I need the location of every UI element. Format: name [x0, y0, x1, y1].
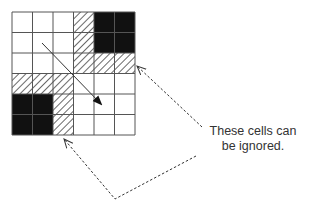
grid-cell-blocked — [94, 12, 115, 33]
grid-cell-empty — [53, 12, 74, 33]
grid-cell-blocked — [33, 115, 54, 136]
callout-text: These cells can be ignored. — [196, 124, 310, 154]
grid-cell-hatched — [53, 74, 74, 95]
grid-cell-empty — [53, 33, 74, 54]
grid-cell-blocked — [115, 12, 136, 33]
grid-cell-blocked — [94, 33, 115, 54]
callout-pointer-arrow-icon — [137, 66, 202, 127]
grid-cell-hatched — [115, 53, 136, 74]
grid-cell-empty — [33, 53, 54, 74]
grid-cell-empty — [115, 94, 136, 115]
grid-cell-empty — [94, 94, 115, 115]
grid-cell-hatched — [53, 94, 74, 115]
grid-cell-empty — [74, 94, 95, 115]
grid-cell-empty — [115, 115, 136, 136]
callout-line-2: be ignored. — [196, 139, 310, 154]
grid-cell-empty — [94, 74, 115, 95]
grid-cell-empty — [12, 33, 33, 54]
grid-cell-blocked — [33, 94, 54, 115]
callout-pointer-arrow-icon — [64, 139, 196, 199]
grid-cell-blocked — [12, 94, 33, 115]
grid-cell-hatched — [12, 74, 33, 95]
grid-cell-empty — [33, 12, 54, 33]
grid-cell-empty — [74, 74, 95, 95]
grid-cell-empty — [94, 115, 115, 136]
grid-cell-hatched — [74, 33, 95, 54]
grid-cell-hatched — [53, 115, 74, 136]
grid-cell-hatched — [74, 53, 95, 74]
grid-cell-hatched — [94, 53, 115, 74]
grid-cell-hatched — [33, 74, 54, 95]
grid-cell-empty — [12, 12, 33, 33]
grid-cell-empty — [33, 33, 54, 54]
grid-cell-empty — [53, 53, 74, 74]
callout-line-1: These cells can — [196, 124, 310, 139]
grid-cell-empty — [74, 115, 95, 136]
grid-cell-hatched — [74, 12, 95, 33]
grid-cell-empty — [115, 74, 136, 95]
grid-cell-blocked — [115, 33, 136, 54]
grid-cell-blocked — [12, 115, 33, 136]
grid-cell-empty — [12, 53, 33, 74]
grid-diagram — [0, 0, 312, 211]
